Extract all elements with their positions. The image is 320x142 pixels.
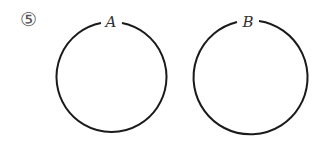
set-b-circle — [194, 21, 308, 134]
set-a-label: A — [104, 13, 117, 31]
set-a-circle — [56, 23, 166, 132]
set-a: A — [56, 13, 166, 132]
set-b: B — [194, 13, 308, 134]
venn-diagram: A B — [0, 0, 320, 142]
set-b-label: B — [241, 13, 253, 31]
